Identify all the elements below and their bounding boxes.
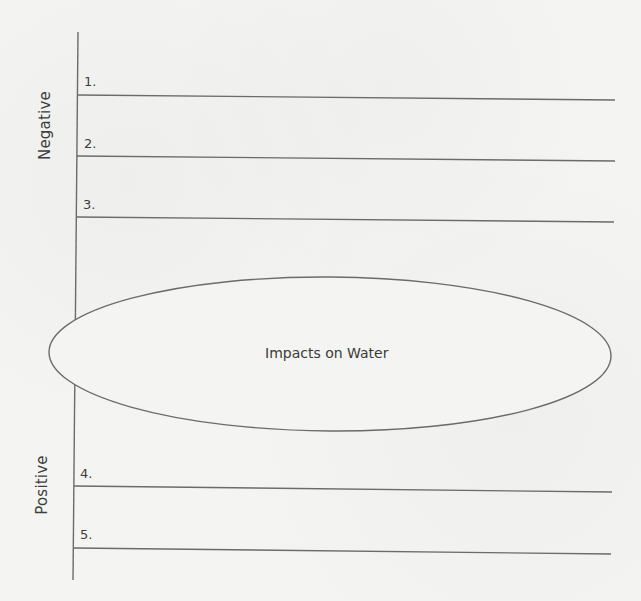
answer-field-4[interactable] [98, 464, 608, 486]
item-number-4: 4. [80, 466, 92, 481]
answer-line-1 [78, 95, 615, 100]
answer-field-3[interactable] [100, 195, 610, 217]
answer-field-2[interactable] [100, 134, 610, 156]
answer-line-5 [74, 548, 611, 554]
answer-line-3 [77, 217, 614, 222]
item-number-3: 3. [83, 197, 95, 212]
answer-field-1[interactable] [100, 73, 610, 95]
vertical-axis-line [73, 32, 78, 580]
answer-line-4 [74, 486, 612, 492]
item-number-5: 5. [80, 527, 92, 542]
item-number-2: 2. [84, 136, 96, 151]
item-number-1: 1. [84, 74, 96, 89]
negative-section-label: Negative [36, 96, 54, 160]
answer-field-5[interactable] [98, 526, 608, 548]
answer-line-2 [77, 156, 615, 161]
positive-section-label: Positive [33, 455, 51, 515]
center-topic-label: Impacts on Water [265, 345, 388, 361]
